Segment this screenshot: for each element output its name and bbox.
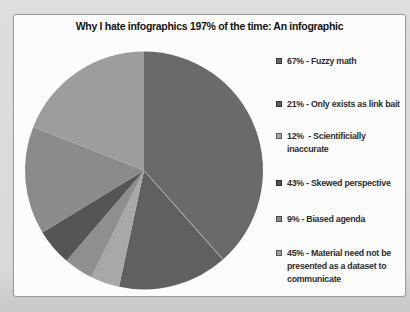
legend-item: 67% - Fuzzy math xyxy=(276,55,356,68)
legend-label: 67% - Fuzzy math xyxy=(287,55,356,68)
screenshot-stage: Why I hate infographics 197% of the time… xyxy=(0,0,410,312)
legend-label: 12% - Scientificially inaccurate xyxy=(287,130,366,156)
legend-swatch-icon xyxy=(276,101,282,107)
legend-label: 9% - Biased agenda xyxy=(287,213,365,226)
legend-item: 12% - Scientificially inaccurate xyxy=(276,130,366,156)
legend-label: 43% - Skewed perspective xyxy=(287,177,391,190)
legend-label: 21% - Only exists as link bait xyxy=(287,98,400,111)
legend-swatch-icon xyxy=(276,250,282,256)
legend-swatch-icon xyxy=(276,133,282,139)
pie-slices-group xyxy=(25,52,263,290)
legend-item: 43% - Skewed perspective xyxy=(276,177,391,190)
legend-item: 9% - Biased agenda xyxy=(276,213,365,226)
legend-item: 45% - Material need not be presented as … xyxy=(276,247,391,286)
legend-swatch-icon xyxy=(276,216,282,222)
legend-swatch-icon xyxy=(276,180,282,186)
legend-label: 45% - Material need not be presented as … xyxy=(287,247,391,286)
legend: 67% - Fuzzy math21% - Only exists as lin… xyxy=(276,0,404,312)
legend-item: 21% - Only exists as link bait xyxy=(276,98,400,111)
legend-swatch-icon xyxy=(276,58,282,64)
